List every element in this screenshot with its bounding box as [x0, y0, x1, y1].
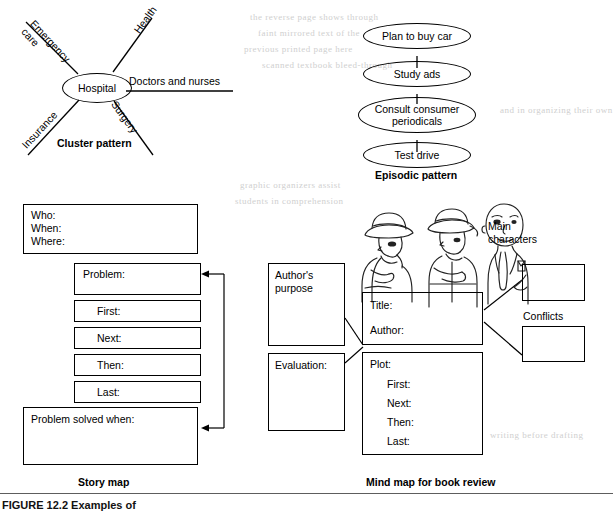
episodic-pattern-caption: Episodic pattern — [375, 169, 457, 181]
episodic-step-label: Study ads — [394, 68, 441, 80]
story-map-sequence-box-then: Then: — [74, 354, 201, 376]
episodic-step-label: Test drive — [395, 149, 440, 161]
authors-purpose-box: Author's purpose — [268, 263, 345, 346]
cluster-center-label: Hospital — [78, 82, 116, 94]
story-map-who-label: Who: — [31, 209, 56, 222]
evaluation-label: Evaluation: — [275, 359, 327, 372]
story-map-then-label: Then: — [97, 359, 124, 372]
story-map-last-label: Last: — [97, 386, 120, 399]
title-label: Title: — [370, 299, 392, 312]
plot-box: Plot: First: Next: Then: Last: — [362, 352, 483, 455]
title-author-box: Title: Author: — [362, 292, 483, 345]
ghost-text: graphic organizers assist — [240, 180, 341, 190]
story-map-resolution-label: Problem solved when: — [31, 413, 134, 426]
episodic-step-4: Test drive — [363, 142, 471, 168]
mind-map-caption: Mind map for book review — [366, 476, 496, 488]
plot-first-label: First: — [387, 378, 410, 391]
plot-then-label: Then: — [387, 416, 414, 429]
figure-divider-rule — [0, 493, 613, 494]
cluster-center-node: Hospital — [62, 73, 132, 103]
story-map-sequence-box-next: Next: — [74, 327, 201, 349]
plot-last-label: Last: — [387, 435, 410, 448]
story-map-sequence-box-last: Last: — [74, 381, 201, 403]
main-characters-label: Main characters — [488, 220, 537, 246]
plot-label: Plot: — [370, 358, 391, 371]
figure-caption: FIGURE 12.2 Examples of — [2, 499, 136, 511]
main-characters-box — [522, 264, 585, 301]
evaluation-box: Evaluation: — [268, 353, 345, 431]
story-map-where-label: Where: — [31, 235, 65, 248]
cluster-pattern-caption: Cluster pattern — [57, 137, 132, 149]
episodic-step-label: Consult consumer periodicals — [375, 103, 460, 127]
episodic-step-label: Plan to buy car — [382, 30, 452, 42]
author-label: Author: — [370, 324, 404, 337]
cluster-spoke-label-doctors-and-nurses: Doctors and nurses — [129, 76, 220, 88]
ghost-text: previous printed page here — [244, 44, 353, 54]
episodic-step-3: Consult consumer periodicals — [358, 97, 476, 133]
plot-next-label: Next: — [387, 397, 412, 410]
ghost-text: students in comprehension — [235, 196, 344, 206]
story-map-first-label: First: — [97, 305, 120, 318]
conflicts-box — [522, 326, 585, 362]
story-map-header-box: Who: When: Where: — [23, 204, 198, 254]
conflicts-label: Conflicts — [523, 310, 563, 323]
episodic-step-1: Plan to buy car — [363, 23, 471, 49]
story-map-next-label: Next: — [97, 332, 122, 345]
story-map-problem-box: Problem: — [74, 263, 201, 295]
authors-purpose-label: Author's purpose — [275, 269, 313, 295]
story-map-sequence-box-first: First: — [74, 300, 201, 322]
story-map-caption: Story map — [78, 476, 129, 488]
story-map-problem-label: Problem: — [83, 268, 125, 281]
story-map-when-label: When: — [31, 222, 61, 235]
story-map-resolution-box: Problem solved when: — [23, 407, 198, 465]
episodic-step-2: Study ads — [363, 61, 471, 87]
